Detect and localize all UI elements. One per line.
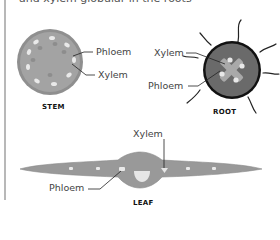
leaf-caption: LEAF bbox=[133, 200, 154, 207]
stem-caption: STEM bbox=[42, 104, 65, 111]
stem-phloem-label: Phloem bbox=[96, 47, 131, 57]
stem-cross-section bbox=[17, 29, 95, 95]
leaf-phloem-label: Phloem bbox=[49, 183, 84, 193]
root-xylem-label: Xylem bbox=[154, 48, 184, 58]
root-caption: ROOT bbox=[213, 109, 236, 116]
root-phloem-label: Phloem bbox=[148, 81, 183, 91]
stem-xylem-label: Xylem bbox=[98, 70, 128, 80]
root-cross-section bbox=[183, 20, 279, 113]
leaf-xylem-label: Xylem bbox=[133, 129, 163, 139]
